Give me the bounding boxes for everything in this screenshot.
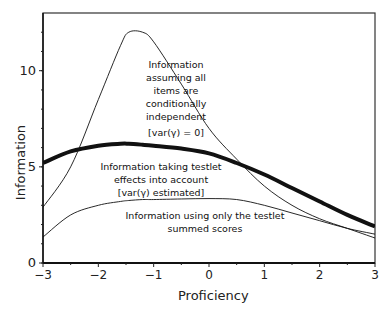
x-tick-label: 2 xyxy=(316,268,324,282)
annotation-independent-var: [var(γ) = 0] xyxy=(126,126,226,139)
x-tick-label: 3 xyxy=(371,268,379,282)
y-tick-label: 10 xyxy=(19,63,36,78)
y-tick-label: 5 xyxy=(28,159,36,174)
annotation-independent: Information assuming all items are condi… xyxy=(126,58,226,123)
x-axis-label: Proficiency xyxy=(178,288,249,303)
y-axis-label: Information xyxy=(13,123,28,203)
x-tick-label: −3 xyxy=(34,268,52,282)
x-tick-label: −2 xyxy=(89,268,107,282)
x-tick-label: −1 xyxy=(145,268,163,282)
y-tick-label: 0 xyxy=(28,255,36,270)
information-chart: −3−2−101230510 xyxy=(0,0,387,313)
x-tick-label: 1 xyxy=(261,268,269,282)
x-tick-label: 0 xyxy=(205,268,213,282)
annotation-testlet: Information taking testlet effects into … xyxy=(76,160,246,199)
annotation-summed: Information using only the testlet summe… xyxy=(95,209,315,235)
